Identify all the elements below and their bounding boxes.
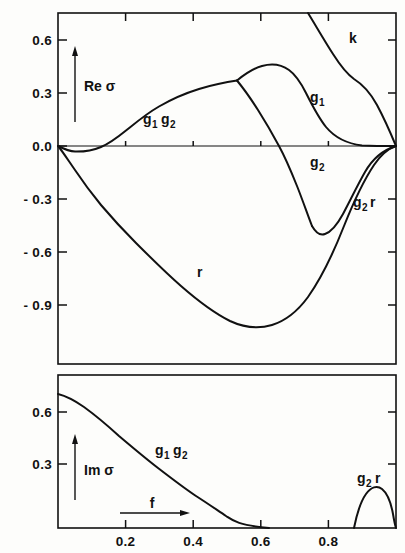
- annotation-g1g2-upper-sub1: 1: [152, 119, 158, 130]
- curve-g2r-lower: [354, 487, 396, 528]
- annotation-g1-sub: 1: [319, 97, 325, 108]
- y-ticklabel-neg0.6: - 0.6: [23, 245, 52, 260]
- annotation-g1g2-upper-g2: g: [161, 111, 170, 127]
- upper-x-ticks-top: [126, 13, 329, 21]
- curve-g2r: [312, 146, 396, 235]
- upper-plot-frame: [58, 13, 396, 364]
- upper-right-ticks: [388, 40, 396, 305]
- x-ticklabel-0.2: 0.2: [116, 534, 136, 549]
- im-sigma-label: Im σ: [84, 462, 114, 478]
- annotation-g1g2-lower: g 1 g 2: [155, 442, 188, 461]
- im-sigma-axis-annotation: Im σ: [72, 434, 114, 500]
- annotation-g2r-r: r: [370, 194, 376, 210]
- annotation-g2r-base: g: [353, 194, 362, 210]
- annotation-g1g2-upper-g1: g: [143, 111, 152, 127]
- y-ticklabel-0.6: 0.6: [32, 33, 52, 48]
- x-ticklabel-0.6: 0.6: [251, 534, 271, 549]
- im-sigma-arrow-head: [72, 434, 78, 444]
- lower-x-ticklabels: 0.2 0.4 0.6 0.8: [116, 534, 339, 549]
- lower-right-ticks: [388, 412, 396, 464]
- frequency-axis-annotation: f: [120, 495, 190, 516]
- annotation-k-upper: k: [349, 30, 357, 46]
- lower-y-ticks: [58, 412, 67, 464]
- curve-g1: [237, 65, 396, 146]
- re-sigma-label: Re σ: [84, 78, 116, 94]
- annotation-g2r-lower-base: g: [357, 470, 366, 486]
- x-ticklabel-0.4: 0.4: [183, 534, 203, 549]
- upper-zero-ticks: [126, 141, 329, 146]
- annotation-g2r-upper: g 2 r: [353, 194, 376, 213]
- y-ticklabel-lower-0.6: 0.6: [32, 405, 52, 420]
- annotation-r-upper: r: [197, 264, 203, 280]
- lower-panel: 0.6 0.3 0.2 0.4 0.6 0.8 Im σ: [32, 375, 396, 549]
- lower-plot-frame: [58, 375, 396, 528]
- figure-canvas: 0.6 0.3 0.0 - 0.3 - 0.6 - 0.9: [0, 0, 405, 553]
- upper-y-ticks: [58, 40, 67, 305]
- annotation-g1g2-lower-g1: g: [155, 442, 164, 458]
- annotation-g2-base: g: [310, 154, 319, 170]
- y-ticklabel-neg0.9: - 0.9: [23, 298, 52, 313]
- annotation-g2r-sub: 2: [362, 202, 368, 213]
- annotation-g1g2-lower-sub1: 1: [164, 450, 170, 461]
- annotation-g1-base: g: [310, 89, 319, 105]
- re-sigma-arrow-head: [72, 46, 78, 56]
- curve-g2: [237, 81, 312, 227]
- annotation-g2-upper: g 2: [310, 154, 325, 173]
- x-ticklabel-0.8: 0.8: [319, 534, 339, 549]
- y-ticklabel-neg0.3: - 0.3: [23, 192, 52, 207]
- upper-y-ticklabels: 0.6 0.3 0.0 - 0.3 - 0.6 - 0.9: [23, 33, 52, 313]
- f-label: f: [150, 495, 155, 511]
- lower-y-ticklabels: 0.6 0.3: [32, 405, 52, 472]
- y-ticklabel-0.3: 0.3: [32, 86, 52, 101]
- y-ticklabel-lower-0.3: 0.3: [32, 457, 52, 472]
- annotation-g2r-lower-sub: 2: [366, 478, 372, 489]
- y-ticklabel-0.0: 0.0: [32, 139, 52, 154]
- annotation-g1g2-upper-sub2: 2: [170, 119, 176, 130]
- curve-g1g2-lower: [58, 394, 269, 528]
- annotation-g1g2-lower-sub2: 2: [182, 450, 188, 461]
- f-arrow-head: [180, 510, 190, 516]
- lower-x-ticks: [126, 520, 329, 528]
- annotation-g2r-lower-r: r: [375, 470, 381, 486]
- upper-panel: 0.6 0.3 0.0 - 0.3 - 0.6 - 0.9: [23, 13, 396, 364]
- annotation-g1g2-upper: g 1 g 2: [143, 111, 176, 130]
- curve-r-upper: [58, 146, 396, 327]
- annotation-g2-sub: 2: [319, 162, 325, 173]
- re-sigma-axis-annotation: Re σ: [72, 46, 116, 122]
- plot-svg: 0.6 0.3 0.0 - 0.3 - 0.6 - 0.9: [0, 0, 405, 553]
- annotation-g1g2-lower-g2: g: [173, 442, 182, 458]
